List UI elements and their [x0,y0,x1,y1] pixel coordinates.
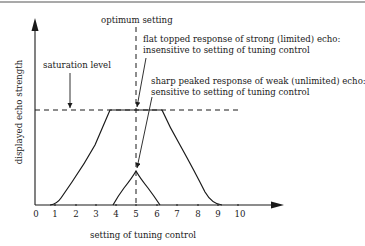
x-tick-label: 10 [235,209,246,219]
echo-tuning-diagram: 0 1 2 3 4 5 6 7 8 9 10 setting of tuning… [0,0,365,246]
y-axis [32,18,39,205]
weak-echo-arrow-icon [137,97,152,168]
y-axis-arrow-icon [32,18,39,31]
x-tick-labels: 0 1 2 3 4 5 6 7 8 9 10 [33,209,245,219]
x-tick-label: 6 [154,209,159,219]
x-tick-label: 3 [93,209,98,219]
strong-echo-arrow-icon [137,58,146,107]
x-axis-label: setting of tuning control [90,230,196,240]
saturation-level-label: saturation level [43,60,111,70]
optimum-setting-label: optimum setting [101,15,173,25]
x-tick-label: 9 [215,209,220,219]
weak-echo-label-line1: sharp peaked response of weak (unlimited… [151,76,365,86]
x-tick-label: 2 [73,209,78,219]
x-tick-label: 0 [33,209,38,219]
x-tick-label: 8 [195,209,200,219]
x-tick-label: 7 [174,209,179,219]
x-tick-label: 1 [52,209,57,219]
y-axis-label: displayed echo strength [14,59,24,164]
strong-echo-label-line1: flat topped response of strong (limited)… [143,34,341,44]
x-tick-label: 4 [113,209,119,219]
weak-echo-label-line2: sensitive to setting of tuning control [151,87,310,97]
strong-echo-label-line2: insensitive to setting of tuning control [143,45,310,55]
x-tick-label: 5 [133,209,138,219]
x-axis-arrow-icon [271,202,284,209]
